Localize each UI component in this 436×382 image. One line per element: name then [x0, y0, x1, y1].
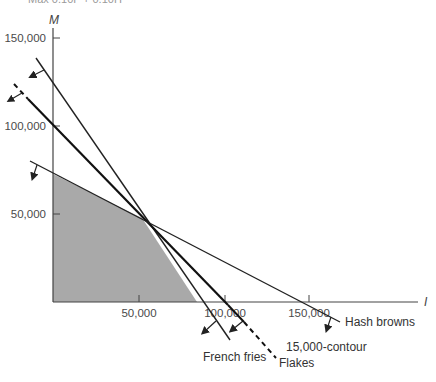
french-fries-arrow-icon	[204, 321, 216, 332]
lp-chart: 150,000 100,000 50,000 50,000 100,000 15…	[0, 0, 436, 382]
label-contour: 15,000-contour	[286, 340, 367, 354]
french-fries-top-arrow-icon	[32, 70, 44, 76]
feasible-region	[53, 174, 197, 302]
y-tick-label-50000: 50,000	[11, 208, 46, 220]
label-hash-browns: Hash browns	[345, 315, 415, 329]
hash-browns-arrow-icon	[33, 165, 37, 177]
y-tick-label-100000: 100,000	[4, 120, 46, 132]
x-tick-label-50000: 50,000	[121, 307, 156, 319]
contour-top-arrow-icon	[10, 93, 22, 100]
y-axis-label: M	[49, 13, 59, 27]
label-french-fries: French fries	[203, 350, 266, 364]
x-axis-label: I	[424, 295, 428, 309]
y-tick-label-150000: 150,000	[4, 32, 46, 44]
label-flakes: Flakes	[279, 356, 314, 370]
flakes-arrow-icon	[232, 321, 243, 330]
